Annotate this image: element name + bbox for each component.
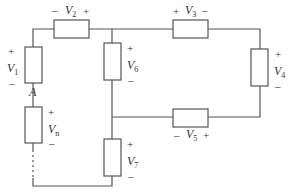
element-v6: + V6 – [104,42,138,86]
v6-label: V6 [127,58,138,74]
v2-box [54,20,89,38]
element-v3: + V3 – [173,3,208,38]
v1-label: V1 [7,61,18,77]
v2-label: V2 [65,3,76,19]
v3-label: V3 [185,3,196,19]
vn-minus: – [48,137,55,149]
v1-minus: – [8,77,15,89]
v3-minus: – [201,4,208,16]
v4-minus: – [274,80,281,92]
v5-box [173,109,208,127]
v7-box [104,139,121,176]
v7-minus: – [127,170,134,182]
v2-plus: + [83,5,89,17]
vn-plus: + [48,106,54,118]
circuit-diagram: + V1 – A – V2 + + V3 – + V4 – – V5 + + V… [0,0,295,194]
v3-plus: + [173,5,179,17]
wire-left-top [33,29,54,47]
v1-box [25,47,42,83]
v5-label: V5 [186,127,197,143]
v2-minus: – [51,4,58,16]
v5-minus: – [173,129,180,141]
wire-right [208,86,260,117]
v4-box [251,49,268,86]
v5-plus: + [203,129,209,141]
v6-minus: – [127,74,134,86]
node-a-label: A [28,85,37,99]
v1-plus: + [8,45,14,57]
v6-box [104,43,121,80]
v7-plus: + [127,138,133,150]
wire-center-bottom [33,176,112,186]
v3-box [173,20,208,38]
element-v4: + V4 – [251,48,285,92]
element-vn: + Vn – [25,106,59,149]
vn-label: Vn [48,122,59,138]
v7-label: V7 [127,154,138,170]
element-v1: + V1 – [7,45,42,89]
element-v2: – V2 + [51,3,89,38]
v4-plus: + [275,48,281,60]
element-v7: + V7 – [104,138,138,182]
v4-label: V4 [274,64,285,80]
wires [33,29,260,186]
v6-plus: + [127,42,133,54]
element-v5: – V5 + [173,109,209,143]
wire-top-right [208,29,260,49]
vn-box [25,107,42,143]
